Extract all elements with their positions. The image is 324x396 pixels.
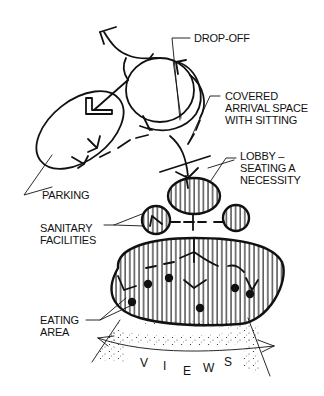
label-covered-2: ARRIVAL SPACE (225, 102, 308, 114)
label-sanitary-2: FACILITIES (40, 234, 96, 246)
parking-node (22, 76, 148, 185)
parking-ellipse (22, 76, 138, 185)
views-letter-e: E (183, 364, 191, 378)
label-parking: PARKING (42, 189, 89, 201)
entry-road (104, 32, 158, 59)
drop-off-circle (126, 58, 194, 122)
views-letter-v: V (140, 356, 148, 370)
label-covered-1: COVERED (225, 90, 278, 102)
eating-area-node (112, 238, 284, 325)
label-covered-3: WITH SITTING (225, 114, 297, 126)
views-letter-w: W (203, 361, 215, 375)
covered-arrival-node (140, 60, 204, 144)
label-lobby-2: SEATING A (240, 162, 296, 174)
views-letter-i: I (163, 359, 166, 373)
label-eating-2: AREA (40, 326, 70, 338)
label-eating-1: EATING (40, 314, 79, 326)
entry-arrow-head-b (100, 32, 104, 44)
label-lobby-3: NECESSITY (240, 174, 301, 186)
sanitary-right-node (223, 205, 249, 231)
label-lobby-1: LOBBY – (240, 150, 285, 162)
label-drop-off: DROP-OFF (194, 32, 250, 44)
sanitary-left-node (142, 206, 170, 234)
views-node: V I E W S (92, 318, 274, 378)
lobby-node (168, 178, 220, 214)
views-letter-s: S (224, 355, 232, 369)
label-sanitary-1: SANITARY (40, 222, 93, 234)
entry-arrow-head-a (100, 27, 116, 32)
bubble-diagram: V I E W S DROP-OFF COVERED ARRIVAL SPACE… (0, 0, 324, 396)
